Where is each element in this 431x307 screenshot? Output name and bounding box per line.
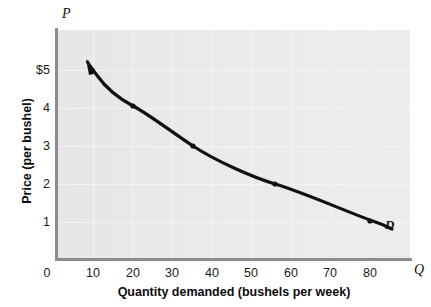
x-tick-label-30: 30 [165, 266, 179, 280]
y-axis-line [55, 28, 58, 260]
x-axis-line [55, 258, 412, 261]
gridline-horizontal [58, 222, 410, 223]
gridline-vertical [370, 30, 371, 258]
x-axis-title: Quantity demanded (bushels per week) [58, 285, 410, 299]
x-tick-label-20: 20 [126, 266, 140, 280]
x-tick-label-50: 50 [244, 266, 258, 280]
x-tick-label-40: 40 [205, 266, 219, 280]
gridline-horizontal [58, 184, 410, 185]
x-tick-label-60: 60 [284, 266, 298, 280]
x-axis-symbol: Q [414, 262, 424, 278]
gridline-horizontal [58, 70, 410, 71]
plot-background [58, 30, 410, 258]
gridline-vertical [330, 30, 331, 258]
x-tick-label-10: 10 [86, 266, 100, 280]
gridline-horizontal [58, 108, 410, 109]
demand-curve-chart: P Q $5 4 3 2 1 0 10 20 30 40 50 60 70 80… [0, 0, 431, 307]
gridline-vertical [93, 30, 94, 258]
x-tick-label-70: 70 [323, 266, 337, 280]
gridline-vertical [132, 30, 133, 258]
gridline-vertical [291, 30, 292, 258]
plot-area [58, 30, 410, 258]
y-axis-symbol: P [62, 6, 71, 22]
demand-curve-label: D [385, 217, 394, 233]
gridline-horizontal [58, 146, 410, 147]
x-tick-label-80: 80 [363, 266, 377, 280]
gridline-vertical [172, 30, 173, 258]
gridline-vertical [212, 30, 213, 258]
origin-label: 0 [44, 266, 51, 280]
gridline-vertical [251, 30, 252, 258]
y-axis-title: Price (per bushel) [20, 71, 34, 231]
